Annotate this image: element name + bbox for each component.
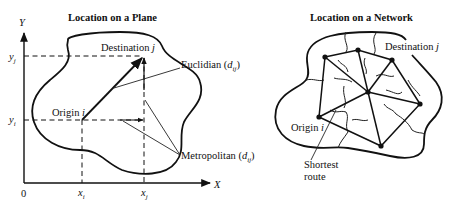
plane-destination-label: Destination j [101, 42, 155, 53]
euclidian-leader [114, 68, 180, 88]
network-panel: Location on a Network [275, 12, 441, 182]
euclidian-label: Euclidian (dij) [181, 59, 241, 73]
shortest-route-label-line1: Shortest [304, 159, 339, 170]
network-node [322, 54, 327, 59]
tick-yj: yj [8, 51, 16, 65]
metropolitan-label: Metropolitan (dij) [181, 150, 255, 164]
network-destination-label: Destination j [385, 41, 439, 52]
diagram-canvas: Location on a Plane Y X 0 yj yi xi xj De… [0, 0, 457, 204]
tick-xi: xi [77, 187, 85, 201]
euclidian-arrow [82, 58, 142, 120]
tick-yi: yi [8, 114, 16, 128]
network-node [355, 47, 360, 52]
x-axis-label: X [213, 179, 221, 190]
network-node [378, 143, 383, 148]
y-axis-label: Y [19, 17, 26, 28]
network-node [389, 57, 394, 62]
network-origin-label: Origin i [291, 122, 324, 133]
network-node-origin [316, 114, 321, 119]
metropolitan-leader-2 [145, 100, 180, 155]
network-links [319, 50, 420, 146]
plane-panel: Location on a Plane Y X 0 yj yi xi xj De… [8, 12, 255, 201]
plane-origin-label: Origin i [52, 107, 85, 118]
shortest-route-leader [311, 110, 336, 160]
network-node-center [365, 89, 370, 94]
network-title: Location on a Network [310, 12, 413, 23]
plane-title: Location on a Plane [68, 12, 157, 23]
network-node [417, 101, 422, 106]
shortest-route-label-line2: route [304, 171, 326, 182]
metropolitan-leader-1 [123, 121, 180, 155]
tick-xj: xj [140, 187, 148, 201]
origin-zero-label: 0 [21, 188, 26, 199]
